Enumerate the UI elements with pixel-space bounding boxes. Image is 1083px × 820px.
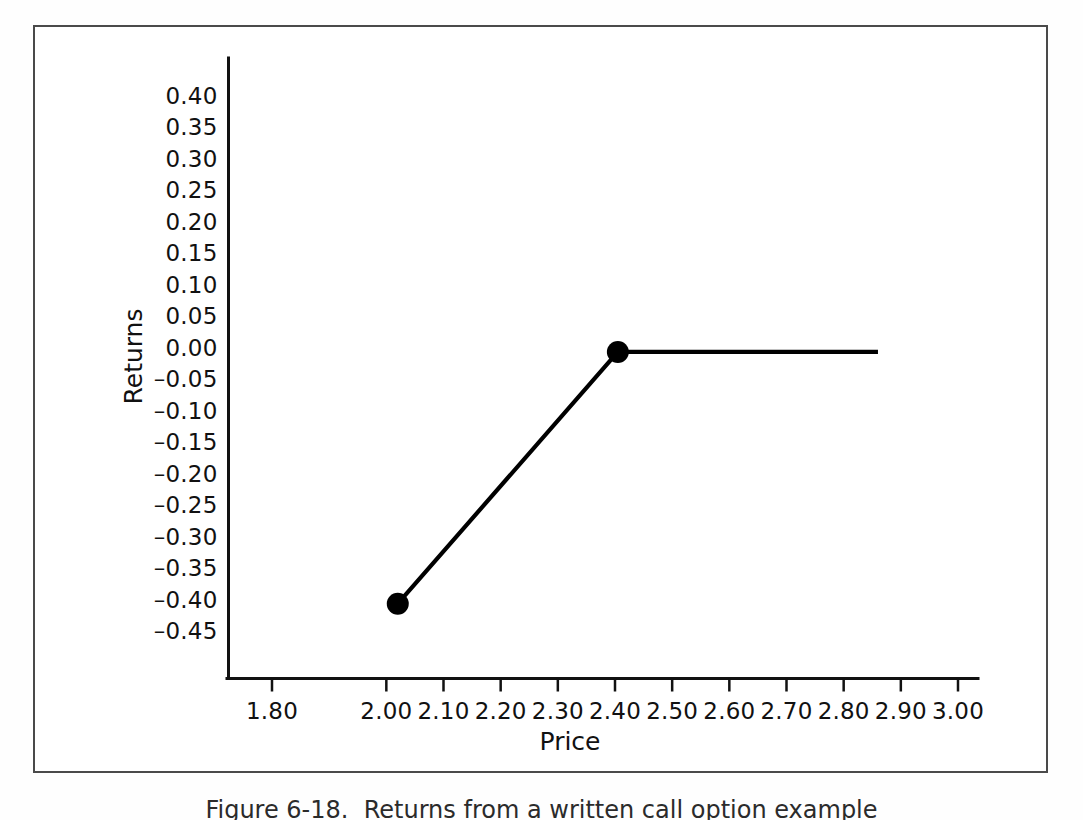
figure-page: 0.400.350.300.250.200.150.100.050.00–0.0… bbox=[0, 0, 1083, 820]
y-axis-tick-label: –0.20 bbox=[154, 461, 218, 487]
y-axis-tick-label: 0.05 bbox=[165, 303, 217, 329]
y-axis-tick-label: –0.45 bbox=[154, 618, 218, 644]
figure-caption: Figure 6-18. Returns from a written call… bbox=[0, 797, 1083, 820]
data-point-marker bbox=[387, 593, 409, 615]
x-axis-tick-label: 3.00 bbox=[913, 698, 1003, 724]
x-axis-tick-marks bbox=[272, 679, 958, 692]
y-axis-tick-label: –0.40 bbox=[154, 587, 218, 613]
y-axis-tick-label: 0.10 bbox=[165, 272, 217, 298]
y-axis-tick-label: –0.10 bbox=[154, 398, 218, 424]
y-axis-tick-label: 0.00 bbox=[165, 335, 217, 361]
returns-line bbox=[398, 352, 878, 604]
x-axis-tick-label: 1.80 bbox=[227, 698, 317, 724]
y-axis-tick-label: 0.15 bbox=[165, 240, 217, 266]
data-point-marker bbox=[607, 341, 629, 363]
y-axis-tick-label: –0.05 bbox=[154, 366, 218, 392]
y-axis-tick-label: 0.30 bbox=[165, 146, 217, 172]
y-axis-tick-label: –0.35 bbox=[154, 555, 218, 581]
y-axis-tick-label: 0.35 bbox=[165, 114, 217, 140]
y-axis-tick-label: 0.25 bbox=[165, 177, 217, 203]
y-axis-tick-label: 0.40 bbox=[165, 83, 217, 109]
y-axis-title: Returns bbox=[119, 257, 148, 457]
y-axis-tick-label: –0.30 bbox=[154, 524, 218, 550]
x-axis-title: Price bbox=[420, 727, 720, 756]
y-axis-tick-label: 0.20 bbox=[165, 209, 217, 235]
y-axis-tick-label: –0.25 bbox=[154, 492, 218, 518]
y-axis-tick-label: –0.15 bbox=[154, 429, 218, 455]
data-series-written-call bbox=[387, 341, 878, 615]
